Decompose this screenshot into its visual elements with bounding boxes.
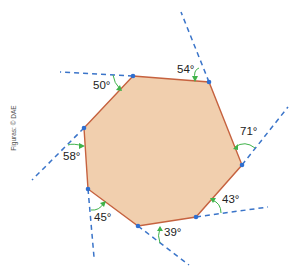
vertex-dot [207, 80, 212, 85]
angle-label-5: 39° [164, 226, 181, 238]
arrowhead-icon [157, 226, 163, 231]
angle-label-4: 43° [222, 193, 239, 205]
vertex-dot [194, 215, 199, 220]
angle-label-2: 54° [177, 63, 194, 75]
extension-line-4 [196, 207, 268, 217]
angle-label-7: 58° [63, 150, 80, 162]
vertex-dot [136, 224, 141, 229]
angle-label-3: 71° [240, 125, 257, 137]
heptagon-diagram: 50° 54° 71° 43° 39° 45° 58° [0, 0, 307, 279]
arrowhead-icon [100, 201, 106, 207]
vertex-dot [82, 126, 87, 131]
vertex-dot [240, 163, 245, 168]
vertex-dot [131, 74, 136, 79]
extension-line-1 [60, 72, 133, 76]
angle-label-6: 45° [94, 211, 111, 223]
angle-label-1: 50° [93, 79, 110, 91]
arrowhead-icon [79, 143, 85, 149]
vertex-dot [86, 187, 91, 192]
extension-line-6 [88, 189, 94, 257]
